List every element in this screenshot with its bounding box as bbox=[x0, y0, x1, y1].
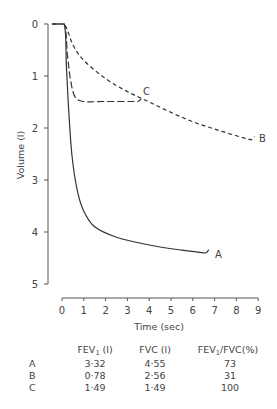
header-ratio: FEV1/FVC(%) bbox=[198, 344, 258, 357]
row-label: B bbox=[29, 370, 36, 381]
cell-ratio: 31 bbox=[224, 370, 236, 381]
cell-ratio: 73 bbox=[224, 358, 236, 369]
row-label: C bbox=[29, 382, 36, 393]
cell-fvc: 1·49 bbox=[144, 382, 165, 393]
cell-ratio: 100 bbox=[221, 382, 239, 393]
cell-fvc: 4·55 bbox=[144, 358, 165, 369]
header-fev1: FEV1 (l) bbox=[77, 344, 112, 357]
cell-fev1: 0·78 bbox=[84, 370, 105, 381]
cell-fvc: 2·56 bbox=[144, 370, 165, 381]
header-fvc: FVC (l) bbox=[139, 344, 171, 355]
results-table: FEV1 (l) FVC (l) FEV1/FVC(%) A3·324·5573… bbox=[0, 0, 277, 409]
cell-fev1: 3·32 bbox=[84, 358, 105, 369]
row-label: A bbox=[29, 358, 36, 369]
cell-fev1: 1·49 bbox=[84, 382, 105, 393]
